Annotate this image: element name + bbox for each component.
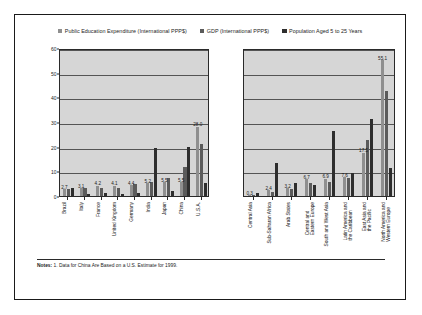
grid-line [60,99,208,100]
bar [347,178,350,196]
bar-group [324,131,335,196]
x-tick-mark [167,197,168,200]
x-axis-label: United Kingdom [112,202,117,236]
bar-group [146,148,157,196]
bar-group [80,188,91,196]
bar-value-label: 4.2 [95,181,101,186]
bar [67,189,70,196]
bar [121,194,124,196]
x-tick-mark [367,197,368,200]
legend-item-education: Public Education Expenditure (Internatio… [58,28,187,34]
x-axis-label: Central and Eastern Europe [305,202,316,235]
x-tick-mark [253,197,254,200]
x-tick-mark [291,197,292,200]
bar-value-label: 7.6 [341,173,347,178]
x-axis-label: Central Asia [248,202,253,228]
grid-line [60,75,208,76]
notes-text: Notes: 1. Data for China Are Based on a … [37,263,387,268]
x-tick-mark [134,197,135,200]
bar-group [180,147,191,196]
x-axis-label: China [179,202,184,215]
bar [130,185,133,196]
bar [286,188,289,196]
grid-line [244,99,394,100]
bar [117,188,120,196]
x-tick-mark [151,197,152,200]
plot-area-right: 0.32.43.26.76.97.617.555.1 [243,49,395,197]
bar-value-label: 3.2 [284,184,290,189]
x-tick-mark [386,197,387,200]
bar [362,153,365,196]
bar [370,119,373,196]
bar [305,179,308,196]
bar [294,183,297,196]
grid-line [60,50,208,51]
bar-value-label: 0.3 [246,191,252,196]
legend-swatch-population [282,29,287,34]
grid-line [244,50,394,51]
bar [63,189,66,196]
bar [80,188,83,196]
bar [104,193,107,196]
legend-label-population: Population Aged 5 to 25 Years [289,28,362,34]
chart-figure: Public Education Expenditure (Internatio… [14,14,406,300]
bar-group [130,184,141,196]
x-axis-label: U.S.A. [196,202,201,216]
x-tick-mark [84,197,85,200]
bar [351,173,354,196]
bar-value-label: 17.5 [359,148,368,153]
bar-value-label: 5.5 [178,178,184,183]
bar-value-label: 4.1 [111,181,117,186]
bar [146,183,149,196]
bar [96,186,99,196]
y-axis: 0102030405060 [15,49,59,198]
bar [100,188,103,196]
x-tick-mark [272,197,273,200]
legend-label-education: Public Education Expenditure (Internatio… [65,28,187,34]
bar [309,183,312,196]
bar [71,188,74,196]
bar-value-label: 6.7 [303,175,309,180]
chart-legend: Public Education Expenditure (Internatio… [15,28,405,34]
bar [187,147,190,196]
bar [171,191,174,196]
bar-value-label: 2.4 [265,186,271,191]
x-axis-label: France [96,202,101,217]
bar [200,144,203,196]
bar [204,183,207,196]
bar-group [113,186,124,196]
bar [324,179,327,196]
x-axis-label: South and West Asia [324,202,329,246]
notes-body: 1. Data for China Are Based on a U.S. Es… [52,263,177,268]
bar-value-label: 2.7 [61,185,67,190]
bar [290,189,293,196]
x-tick-mark [117,197,118,200]
bar [332,131,335,196]
bar [343,177,346,196]
x-axis-label: East Asia and the Pacific [362,202,373,231]
x-axis-label: Brazil [62,202,67,214]
x-tick-mark [184,197,185,200]
bar-value-label: 5.5 [161,178,167,183]
bar-value-label: 55.1 [378,56,387,61]
x-tick-mark [67,197,68,200]
x-axis-label: Sub-Saharan Africa [267,202,272,244]
bar-group [267,163,278,196]
chart-panel-countries: 2.73.14.24.14.45.25.55.528.0 BrazilItaly… [59,49,209,219]
bar [381,60,384,196]
bar [113,186,116,196]
bar [133,184,136,196]
chart-panel-regions: 0.32.43.26.76.97.617.555.1 Central AsiaS… [243,49,395,219]
bar-value-label: 6.9 [322,174,328,179]
bar-group [362,119,373,196]
bar-group [96,186,107,196]
x-tick-mark [348,197,349,200]
bar-group [196,127,207,196]
bar [154,148,157,196]
bar-value-label: 28.0 [193,122,202,127]
x-axis-label: Arab States [286,202,291,227]
x-tick-mark [101,197,102,200]
bar [163,182,166,196]
x-tick-mark [329,197,330,200]
bar [196,127,199,196]
